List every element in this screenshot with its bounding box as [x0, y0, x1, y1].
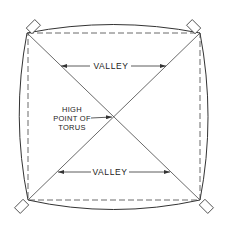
corner-tab-bottom-left — [15, 199, 29, 213]
valley-top-annotation: VALLEY — [61, 61, 166, 71]
high-point-label-line2: POINT OF — [53, 114, 91, 123]
corner-tab-bottom-right — [199, 199, 213, 213]
valley-bottom-label: VALLEY — [92, 167, 127, 177]
corner-tab-top-right — [187, 20, 201, 34]
high-point-label-line3: TORUS — [58, 123, 86, 132]
valley-top-label: VALLEY — [93, 61, 128, 71]
corner-tab-top-left — [26, 20, 40, 34]
torus-diagram: VALLEY VALLEY HIGH POINT OF TORUS — [0, 0, 225, 227]
high-point-annotation: HIGH POINT OF TORUS — [53, 105, 112, 132]
valley-bottom-annotation: VALLEY — [58, 167, 170, 177]
high-point-label-line1: HIGH — [62, 105, 82, 114]
